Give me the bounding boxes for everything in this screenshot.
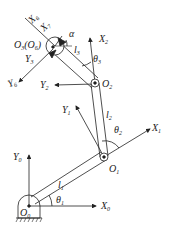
label-y2: Y2	[40, 79, 49, 91]
label-y0: Y0	[13, 151, 22, 163]
x1-axis	[104, 129, 150, 157]
link-1	[31, 152, 106, 204]
joint-o1	[100, 153, 108, 161]
joint-o2	[91, 79, 99, 87]
link-2	[91, 83, 108, 157]
label-x7: X7	[37, 18, 53, 34]
theta2-arc	[102, 141, 119, 148]
diagram-canvas: O0 O1 O2 O3(O6) l1 l2 l3 θ1 θ2 θ3 α X0 Y…	[0, 0, 172, 235]
label-theta3: θ3	[93, 53, 101, 65]
label-l1: l1	[58, 179, 64, 191]
label-y3: Y3	[25, 53, 34, 65]
label-x1: X1	[151, 122, 161, 134]
label-o3: O3(O6)	[14, 39, 42, 51]
theta1-arc	[49, 195, 52, 206]
label-l2: l2	[106, 109, 112, 121]
label-x0: X0	[100, 200, 110, 212]
label-alpha: α	[69, 28, 75, 39]
y1-axis	[76, 106, 104, 157]
label-theta1: θ1	[56, 194, 64, 206]
label-theta2: θ2	[114, 124, 122, 136]
joint-o3	[52, 46, 55, 49]
label-o1: O1	[109, 163, 119, 175]
robot-arm-diagram: O0 O1 O2 O3(O6) l1 l2 l3 θ1 θ2 θ3 α X0 Y…	[0, 0, 172, 235]
alpha-arc	[66, 40, 67, 46]
joint-o0	[28, 205, 31, 208]
label-y6: Y6	[6, 76, 18, 90]
label-o2: O2	[102, 78, 112, 90]
label-x2: X2	[98, 33, 108, 45]
label-l3: l3	[74, 44, 80, 56]
label-y1: Y1	[62, 104, 71, 116]
